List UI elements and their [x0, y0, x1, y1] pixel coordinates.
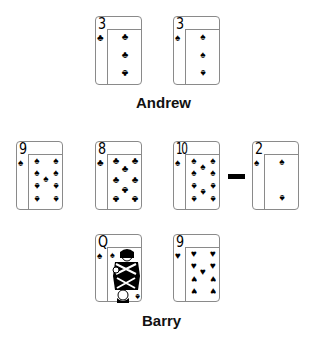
heart-icon: ♥	[208, 261, 218, 271]
club-icon: ♣	[120, 185, 130, 195]
card-board-9-spades[interactable]: 9 ♠ ♠ ♠ ♠ ♠ ♠ ♠ ♠ ♠ ♠	[16, 141, 63, 210]
spade-icon: ♠	[198, 187, 208, 197]
spade-icon: ♠	[208, 194, 218, 204]
spade-icon: ♠	[97, 251, 102, 261]
heart-icon: ♥	[208, 286, 218, 296]
player-name-barry: Barry	[142, 312, 181, 329]
spade-icon: ♠	[175, 158, 180, 168]
svg-text:♠: ♠	[135, 292, 140, 302]
spade-icon: ♠	[198, 50, 208, 60]
card-board-2-spades[interactable]: 2 ♠ ♠ ♠	[252, 141, 299, 210]
heart-icon: ♥	[175, 251, 181, 261]
card-rank: 9	[19, 142, 27, 157]
heart-icon: ♥	[189, 274, 199, 284]
spade-icon: ♠	[175, 33, 180, 43]
spade-icon: ♠	[32, 156, 42, 166]
club-icon: ♣	[97, 158, 104, 168]
spade-icon: ♠	[198, 162, 208, 172]
card-rank: 3	[98, 17, 106, 32]
spade-icon: ♠	[189, 194, 199, 204]
svg-text:♠: ♠	[110, 250, 115, 260]
club-icon: ♣	[120, 68, 130, 78]
card-rank: 10	[176, 142, 187, 157]
heart-icon: ♥	[198, 267, 208, 277]
spade-icon: ♠	[18, 158, 23, 168]
spade-icon: ♠	[51, 168, 61, 178]
heart-icon: ♥	[189, 286, 199, 296]
card-rank: 2	[255, 142, 263, 157]
queen-face-icon: ♠ ♠	[108, 248, 142, 303]
spade-icon: ♠	[208, 181, 218, 191]
separator-dash	[228, 174, 245, 179]
spade-icon: ♠	[208, 168, 218, 178]
spade-icon: ♠	[198, 68, 208, 78]
card-andrew-3-clubs[interactable]: 3 ♣ ♣ ♣ ♣	[95, 16, 142, 85]
heart-icon: ♥	[189, 249, 199, 259]
spade-icon: ♠	[277, 157, 287, 167]
club-icon: ♣	[120, 32, 130, 42]
card-rank: 8	[98, 142, 106, 157]
card-rank: Q	[98, 235, 108, 250]
heart-icon: ♥	[208, 274, 218, 284]
spade-icon: ♠	[41, 174, 51, 184]
club-icon: ♣	[130, 156, 140, 166]
club-icon: ♣	[111, 194, 121, 204]
club-icon: ♣	[97, 33, 104, 43]
card-board-8-clubs[interactable]: 8 ♣ ♣ ♣ ♣ ♣ ♣ ♣ ♣ ♣	[95, 141, 142, 210]
spade-icon: ♠	[208, 156, 218, 166]
spade-icon: ♠	[198, 32, 208, 42]
card-rank: 3	[176, 17, 184, 32]
club-icon: ♣	[130, 175, 140, 185]
spade-icon: ♠	[32, 181, 42, 191]
card-board-10-spades[interactable]: 10 ♠ ♠ ♠ ♠ ♠ ♠ ♠ ♠ ♠ ♠ ♠	[173, 141, 220, 210]
club-icon: ♣	[130, 194, 140, 204]
spade-icon: ♠	[51, 181, 61, 191]
club-icon: ♣	[111, 175, 121, 185]
club-icon: ♣	[120, 164, 130, 174]
player-name-andrew: Andrew	[136, 94, 191, 111]
spade-icon: ♠	[32, 194, 42, 204]
spade-icon: ♠	[51, 156, 61, 166]
spade-icon: ♠	[254, 158, 259, 168]
card-rank: 9	[176, 235, 184, 250]
spade-icon: ♠	[51, 194, 61, 204]
card-andrew-3-spades[interactable]: 3 ♠ ♠ ♠ ♠	[173, 16, 220, 85]
spade-icon: ♠	[277, 193, 287, 203]
club-icon: ♣	[120, 50, 130, 60]
card-barry-9-hearts[interactable]: 9 ♥ ♥ ♥ ♥ ♥ ♥ ♥ ♥ ♥ ♥	[173, 234, 220, 302]
spade-icon: ♠	[189, 168, 199, 178]
heart-icon: ♥	[208, 249, 218, 259]
card-barry-q-spades[interactable]: Q ♠ ♠ ♠	[95, 234, 142, 302]
